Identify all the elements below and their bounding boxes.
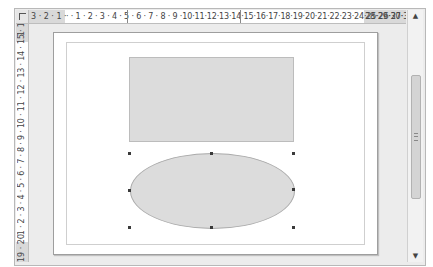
scroll-down-arrow-icon[interactable]: ▼: [408, 250, 423, 262]
grip-icon: [414, 133, 418, 141]
column-marker[interactable]: [240, 10, 241, 23]
selection-handle-bottom[interactable]: [210, 226, 213, 229]
scrollbar-thumb[interactable]: [411, 75, 421, 199]
left-tab-icon: [19, 13, 26, 20]
selection-handle-right[interactable]: [292, 188, 295, 191]
indent-marker[interactable]: [127, 10, 128, 23]
selection-handle-bottom-left[interactable]: [128, 226, 131, 229]
drawing-canvas[interactable]: [29, 24, 407, 262]
selection-handle-top[interactable]: [210, 152, 213, 155]
ruler-main-labels: · · 1 · 2 · 3 · 4 · 5 · 6 · 7 · 8 · 9 ·1…: [66, 11, 403, 22]
selection-handle-left[interactable]: [128, 189, 131, 192]
selection-handle-top-left[interactable]: [128, 152, 131, 155]
selection-handle-top-right[interactable]: [292, 152, 295, 155]
vertical-ruler[interactable]: 1 · 1 · 2 · 3 · 4 · 5 · 6 · 7 · 8 · 9 · …: [16, 24, 29, 262]
tab-stop-selector[interactable]: [16, 10, 29, 24]
selection-handle-bottom-right[interactable]: [292, 226, 295, 229]
ruler-left-margin-labels: 3 · 2 · 1 ·: [31, 11, 67, 22]
ruler-bottom-margin-labels: 19 · 20: [16, 242, 28, 262]
ruler-vertical-main-labels: · 1 · 2 · 3 · 4 · 5 · 6 · 7 · 8 · 9 · 10…: [16, 44, 28, 240]
ellipse-shape[interactable]: [130, 153, 295, 229]
ruler-right-margin-labels: 28·29·30·31·: [365, 11, 406, 22]
vertical-scrollbar[interactable]: ▲ ▼: [407, 10, 423, 262]
page[interactable]: [53, 32, 378, 255]
horizontal-ruler[interactable]: 3 · 2 · 1 · · · 1 · 2 · 3 · 4 · 5 · 6 · …: [29, 10, 406, 24]
rectangle-shape[interactable]: [129, 57, 294, 142]
scroll-up-arrow-icon[interactable]: ▲: [408, 10, 423, 22]
